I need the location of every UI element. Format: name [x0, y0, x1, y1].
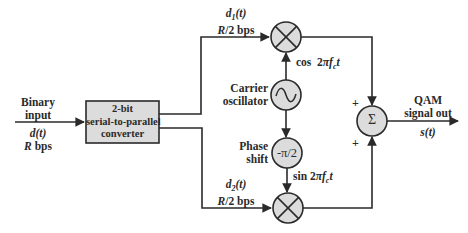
phase-line1: Phase: [228, 140, 268, 153]
bottom-branch-label: d2(t) R/2 bps: [208, 178, 264, 208]
bottom-rate: R/2 bps: [208, 195, 264, 208]
sin-label: sin 2πfct: [293, 170, 333, 187]
carrier-oscillator: [271, 80, 301, 110]
oscillator-line2: oscillator: [212, 95, 268, 108]
phase-shift-label: Phase shift: [228, 140, 268, 166]
phase-shift-symbol: -π/2: [272, 147, 302, 159]
input-signal-text: d(t): [18, 127, 58, 140]
d2-label: d2(t): [208, 178, 264, 195]
cos-label: cos 2πfct: [296, 56, 340, 73]
output-line1: QAM: [398, 94, 458, 107]
sigma-icon: Σ: [362, 114, 382, 126]
converter-line1: 2-bit: [86, 103, 159, 116]
output-signal: s(t): [398, 126, 458, 139]
plus-top: +: [352, 96, 359, 111]
input-rate: R bps: [18, 140, 58, 153]
top-branch-label: d1(t) R/2 bps: [208, 7, 264, 37]
converter-label: 2-bit serial-to-parallel converter: [86, 103, 159, 141]
output-label: QAM signal out: [398, 94, 458, 120]
top-multiplier: [271, 22, 301, 52]
plus-bottom: +: [352, 136, 359, 151]
input-label-line1: Binary: [18, 96, 58, 109]
d1-label: d1(t): [208, 7, 264, 24]
input-label: Binary input: [18, 96, 58, 122]
input-signal: d(t) R bps: [18, 127, 58, 153]
converter-line2: serial-to-parallel: [86, 116, 159, 129]
oscillator-line1: Carrier: [212, 82, 268, 95]
top-rate: R/2 bps: [208, 24, 264, 37]
converter-line3: converter: [86, 128, 159, 141]
bottom-multiplier: [273, 193, 303, 223]
oscillator-label: Carrier oscillator: [212, 82, 268, 108]
input-label-line2: input: [18, 109, 58, 122]
phase-line2: shift: [228, 153, 268, 166]
output-line2: signal out: [398, 107, 458, 120]
